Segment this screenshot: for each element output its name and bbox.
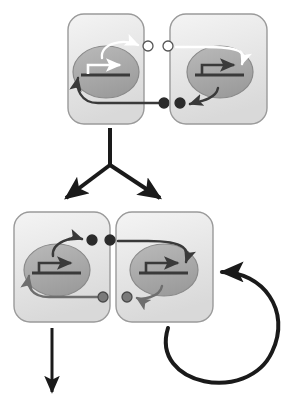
cell-top-right-ligand-dot[interactable] — [163, 41, 173, 51]
cell-top-right[interactable] — [163, 14, 267, 124]
branch-arrow-down-left-branch — [66, 165, 110, 198]
branch-arrow-down-right-branch — [110, 165, 160, 198]
cell-bottom-right[interactable] — [105, 212, 213, 322]
cell-bottom-left[interactable] — [14, 212, 110, 322]
diagram-canvas — [0, 0, 293, 404]
cell-bottom-right-receptor-dot[interactable] — [122, 292, 132, 302]
cell-signaling-diagram — [0, 0, 293, 404]
cell-top-left-receptor-dot[interactable] — [159, 98, 169, 108]
cell-top-left-ligand-dot[interactable] — [143, 41, 153, 51]
cell-bottom-left-nucleus — [24, 244, 90, 296]
branch-arrow-down[interactable] — [66, 128, 160, 198]
cell-top-left-nucleus — [73, 46, 139, 98]
cell-top-right-receptor-dot[interactable] — [175, 98, 185, 108]
cell-bottom-left-ligand-dot[interactable] — [87, 235, 97, 245]
cell-bottom-left-receptor-dot[interactable] — [98, 292, 108, 302]
cell-bottom-right-ligand-dot[interactable] — [105, 235, 115, 245]
cell-top-left[interactable] — [68, 14, 169, 124]
